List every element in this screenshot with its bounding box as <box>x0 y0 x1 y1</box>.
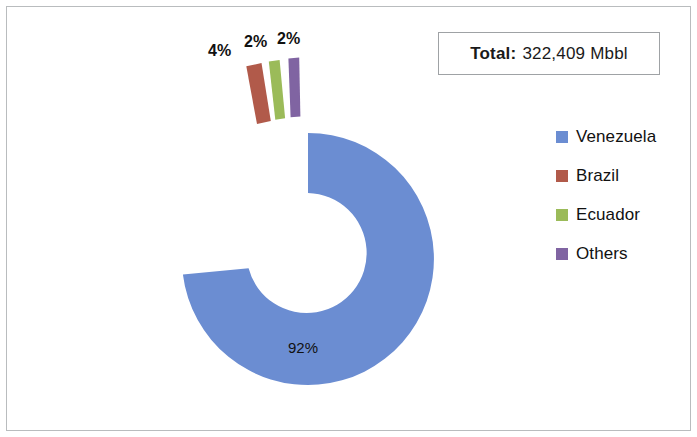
legend-swatch-icon-venezuela <box>556 131 568 143</box>
legend-swatch-icon-ecuador <box>556 209 568 221</box>
data-label-ecuador: 2% <box>244 33 267 51</box>
legend-label-others: Others <box>576 244 628 264</box>
doughnut-chart-figure: 4% 2% 2% 92% Total: 322,409 Mbbl Venezue… <box>0 0 697 437</box>
legend-item-others[interactable]: Others <box>556 245 656 263</box>
legend-swatch-icon-brazil <box>556 170 568 182</box>
total-value: 322,409 Mbbl <box>522 44 627 64</box>
legend-label-ecuador: Ecuador <box>576 205 640 225</box>
legend-swatch-icon-others <box>556 248 568 260</box>
pie-slice-others[interactable] <box>288 58 300 118</box>
chart-legend: Venezuela Brazil Ecuador Others <box>556 128 656 263</box>
pie-slice-ecuador[interactable] <box>269 60 285 120</box>
data-label-others: 2% <box>277 30 300 48</box>
total-callout-box: Total: 322,409 Mbbl <box>438 32 660 75</box>
legend-item-brazil[interactable]: Brazil <box>556 167 656 185</box>
data-label-brazil: 4% <box>208 42 231 60</box>
legend-label-brazil: Brazil <box>576 166 619 186</box>
total-label: Total: <box>470 44 516 64</box>
legend-label-venezuela: Venezuela <box>576 127 656 147</box>
legend-item-venezuela[interactable]: Venezuela <box>556 128 656 146</box>
data-label-venezuela: 92% <box>288 339 318 356</box>
legend-item-ecuador[interactable]: Ecuador <box>556 206 656 224</box>
pie-slice-brazil[interactable] <box>246 63 270 124</box>
